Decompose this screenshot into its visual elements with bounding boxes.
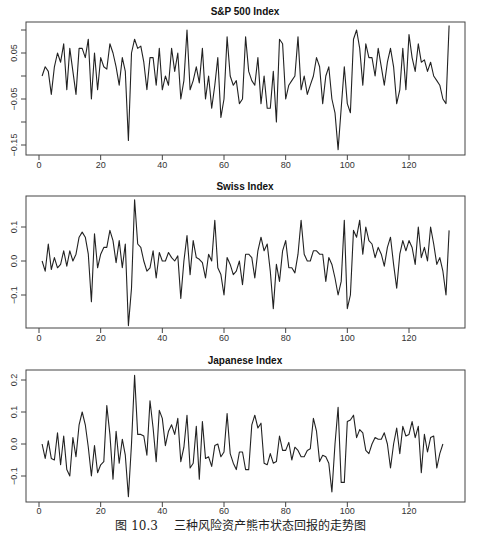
x-tick-label: 0 bbox=[36, 506, 41, 516]
y-tick-label: 0.0 bbox=[9, 255, 19, 268]
x-tick-label: 60 bbox=[219, 160, 229, 170]
x-tick-label: 100 bbox=[340, 160, 355, 170]
chart-title: Swiss Index bbox=[216, 181, 274, 192]
x-tick-label: 20 bbox=[96, 333, 106, 343]
x-tick-label: 120 bbox=[401, 160, 416, 170]
x-tick-label: 20 bbox=[96, 506, 106, 516]
x-tick-label: 60 bbox=[219, 333, 229, 343]
x-tick-label: 40 bbox=[157, 506, 167, 516]
figure-canvas: S&P 500 Index0.05−0.05−0.150204060801001… bbox=[0, 0, 481, 537]
y-tick-label: −0.05 bbox=[9, 88, 19, 111]
x-tick-label: 80 bbox=[281, 160, 291, 170]
x-tick-label: 0 bbox=[36, 333, 41, 343]
figure-number: 图 10.3 bbox=[115, 519, 158, 533]
chart-title: Japanese Index bbox=[208, 355, 283, 366]
chart-panel-0: S&P 500 Index0.05−0.05−0.150204060801001… bbox=[9, 6, 465, 170]
x-tick-label: 120 bbox=[401, 333, 416, 343]
series-line bbox=[42, 375, 443, 497]
y-tick-label: 0.1 bbox=[9, 221, 19, 234]
figure-caption-text: 三种风险资产熊市状态回报的走势图 bbox=[174, 519, 366, 533]
y-tick-label: 0.1 bbox=[9, 406, 19, 419]
series-line bbox=[42, 200, 449, 326]
x-tick-label: 40 bbox=[157, 333, 167, 343]
x-tick-label: 80 bbox=[281, 333, 291, 343]
x-tick-label: 100 bbox=[340, 333, 355, 343]
x-tick-label: 120 bbox=[401, 506, 416, 516]
figure-caption: 图 10.3 三种风险资产熊市状态回报的走势图 bbox=[0, 516, 481, 533]
chart-panel-2: Japanese Index0.20.10.0−0.10204060801001… bbox=[9, 355, 465, 516]
series-line bbox=[42, 25, 449, 149]
x-tick-label: 0 bbox=[36, 160, 41, 170]
x-tick-label: 40 bbox=[157, 160, 167, 170]
x-tick-label: 100 bbox=[340, 506, 355, 516]
y-tick-label: −0.1 bbox=[9, 286, 19, 304]
y-tick-label: −0.1 bbox=[9, 467, 19, 485]
y-tick-label: 0.05 bbox=[9, 44, 19, 62]
y-tick-label: 0.2 bbox=[9, 374, 19, 387]
x-tick-label: 20 bbox=[96, 160, 106, 170]
x-tick-label: 60 bbox=[219, 506, 229, 516]
plot-frame bbox=[26, 370, 465, 502]
chart-panel-1: Swiss Index0.10.0−0.1020406080100120 bbox=[9, 181, 465, 343]
y-tick-label: −0.15 bbox=[9, 134, 19, 157]
x-tick-label: 80 bbox=[281, 506, 291, 516]
chart-title: S&P 500 Index bbox=[211, 6, 280, 17]
y-tick-label: 0.0 bbox=[9, 438, 19, 451]
